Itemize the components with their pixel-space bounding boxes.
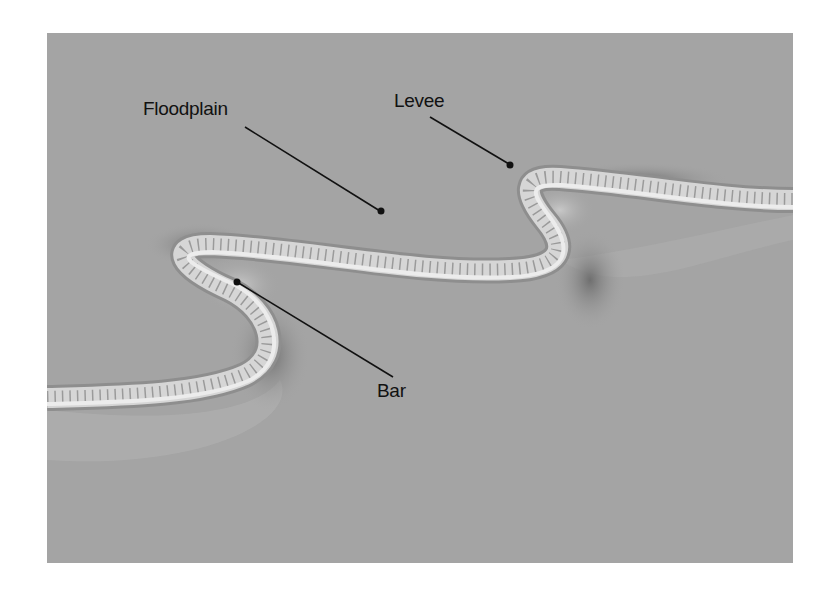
- floodplain-leader-line: [245, 127, 380, 211]
- river-hatching: [47, 178, 793, 398]
- river-inner-bank: [47, 185, 793, 404]
- label-floodplain: Floodplain: [143, 98, 228, 120]
- river-channel-outer: [47, 178, 793, 398]
- floodplain-marker-dot: [378, 208, 385, 215]
- label-levee: Levee: [394, 90, 444, 112]
- label-bar: Bar: [377, 380, 406, 402]
- levee-leader-line: [430, 117, 509, 164]
- river-channel: [47, 178, 793, 398]
- levee-marker-dot: [507, 162, 514, 169]
- bar-marker-dot: [234, 279, 241, 286]
